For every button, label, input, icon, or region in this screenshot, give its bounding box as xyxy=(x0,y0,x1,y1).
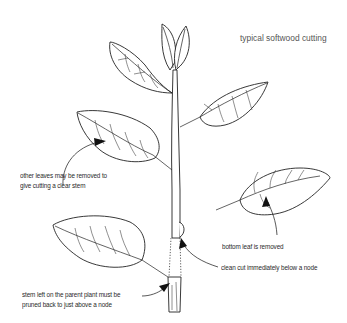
leaf-illustration xyxy=(77,111,172,170)
leaf-illustration xyxy=(180,82,268,127)
label-stem-left-line1: stem left on the parent plant must be xyxy=(22,290,120,300)
label-stem-left-line2: pruned back to just above a node xyxy=(22,300,112,310)
leaf-illustration xyxy=(162,24,189,70)
label-other-leaves-line2: give cutting a clear stem xyxy=(20,181,85,191)
leaf-illustration xyxy=(53,216,168,277)
diagram-title: typical softwood cutting xyxy=(240,33,327,43)
dotted-cut-line xyxy=(169,238,171,277)
softwood-cutting-illustration xyxy=(0,0,347,323)
label-clean-cut: clean cut immediately below a node xyxy=(221,263,317,273)
label-other-leaves-line1: other leaves may be removed to xyxy=(20,171,107,181)
label-bottom-leaf: bottom leaf is removed xyxy=(222,242,283,252)
leaf-illustration xyxy=(216,168,330,215)
stem-illustration xyxy=(168,70,184,312)
